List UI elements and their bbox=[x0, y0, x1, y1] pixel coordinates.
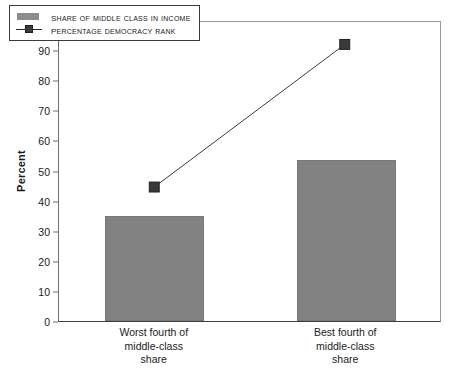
legend-label-line-series: Percentage democracy rank bbox=[51, 24, 176, 36]
plot-area bbox=[58, 21, 441, 322]
x-axis-category-label: Best fourth ofmiddle-classshare bbox=[314, 326, 376, 367]
y-axis-tick-label: 40 bbox=[38, 196, 50, 208]
y-axis-tick-labels: 0102030405060708090100 bbox=[26, 21, 50, 322]
x-axis-category-labels: Worst fourth ofmiddle-classshareBest fou… bbox=[58, 326, 441, 378]
line-series-layer bbox=[59, 22, 440, 321]
x-axis-category-label-line: share bbox=[314, 353, 376, 367]
y-axis-tick-label: 0 bbox=[44, 316, 50, 328]
y-axis-tick-label: 80 bbox=[38, 75, 50, 87]
line-marker bbox=[149, 182, 159, 192]
x-axis-category-label-line: Best fourth of bbox=[314, 326, 376, 340]
y-axis-tick-label: 10 bbox=[38, 286, 50, 298]
x-axis-category-label-line: Worst fourth of bbox=[119, 326, 188, 340]
line-path bbox=[154, 44, 345, 187]
chart-figure: Percent 0102030405060708090100 Share of … bbox=[0, 0, 457, 381]
chart-legend: Share of middle class in income Percenta… bbox=[9, 5, 200, 41]
legend-label-bar-series: Share of middle class in income bbox=[51, 11, 191, 23]
x-axis-category-label-line: middle-class bbox=[119, 340, 188, 354]
y-axis-tick-label: 50 bbox=[38, 166, 50, 178]
x-axis-category-label: Worst fourth ofmiddle-classshare bbox=[119, 326, 188, 367]
line-marker bbox=[340, 39, 350, 49]
y-axis-tick-label: 20 bbox=[38, 256, 50, 268]
legend-item-bar-series: Share of middle class in income bbox=[16, 10, 191, 23]
y-axis-tick-label: 90 bbox=[38, 45, 50, 57]
y-axis-tick-label: 60 bbox=[38, 135, 50, 147]
plot-inner bbox=[59, 22, 440, 321]
x-axis-category-label-line: share bbox=[119, 353, 188, 367]
y-axis-tick-label: 70 bbox=[38, 105, 50, 117]
y-axis-tick-label: 30 bbox=[38, 226, 50, 238]
legend-line-marker-icon bbox=[16, 24, 42, 35]
legend-item-line-series: Percentage democracy rank bbox=[16, 23, 191, 36]
legend-swatch-icon bbox=[16, 11, 42, 22]
x-axis-category-label-line: middle-class bbox=[314, 340, 376, 354]
